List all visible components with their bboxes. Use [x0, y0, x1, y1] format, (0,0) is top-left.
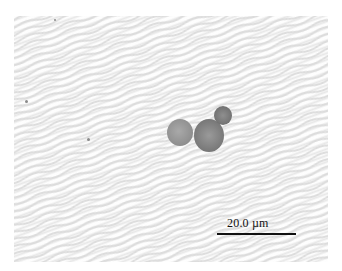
scale-bar [217, 233, 296, 235]
cell-left [167, 119, 193, 146]
debris-speck [87, 138, 90, 141]
debris-speck [54, 19, 56, 21]
debris-speck [25, 100, 28, 103]
scale-bar-label: 20.0 µm [227, 216, 269, 231]
cell-small [214, 106, 232, 125]
micrograph-image [14, 16, 328, 262]
